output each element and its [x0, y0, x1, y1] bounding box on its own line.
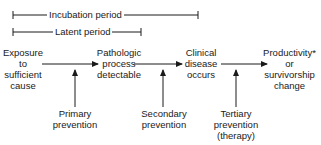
stage-exposure-line2: to	[0, 58, 46, 69]
prevention-secondary-line1: Secondary	[136, 108, 192, 119]
stage-exposure-line4: cause	[0, 80, 46, 91]
stage-pathologic-line1: Pathologic	[91, 47, 147, 58]
stage-exposure-line1: Exposure	[0, 47, 46, 58]
stage-clinical-line3: occurs	[180, 69, 222, 80]
stage-productivity-line4: change	[258, 80, 321, 91]
stage-exposure-line3: sufficient	[0, 69, 46, 80]
prevention-secondary-line2: prevention	[136, 119, 192, 130]
incubation-period-label: Incubation period	[47, 9, 124, 20]
prevention-primary-line1: Primary	[48, 108, 102, 119]
stage-pathologic-line2: process	[91, 58, 147, 69]
stage-clinical-line1: Clinical	[180, 47, 222, 58]
stage-productivity-line3: survivorship	[258, 69, 321, 80]
stage-clinical: Clinical disease occurs	[180, 47, 222, 80]
latent-period-label: Latent period	[53, 26, 112, 37]
stage-exposure: Exposure to sufficient cause	[0, 47, 46, 91]
prevention-tertiary-line3: (therapy)	[209, 130, 263, 141]
prevention-secondary: Secondary prevention	[136, 108, 192, 130]
prevention-tertiary-line1: Tertiary	[209, 108, 263, 119]
prevention-tertiary-line2: prevention	[209, 119, 263, 130]
stage-productivity-line1: Productivity*	[258, 47, 321, 58]
stage-pathologic: Pathologic process detectable	[91, 47, 147, 80]
stage-pathologic-line3: detectable	[91, 69, 147, 80]
stage-clinical-line2: disease	[180, 58, 222, 69]
prevention-primary: Primary prevention	[48, 108, 102, 130]
prevention-tertiary: Tertiary prevention (therapy)	[209, 108, 263, 141]
stage-productivity-line2: or	[258, 58, 321, 69]
prevention-primary-line2: prevention	[48, 119, 102, 130]
stage-productivity: Productivity* or survivorship change	[258, 47, 321, 91]
